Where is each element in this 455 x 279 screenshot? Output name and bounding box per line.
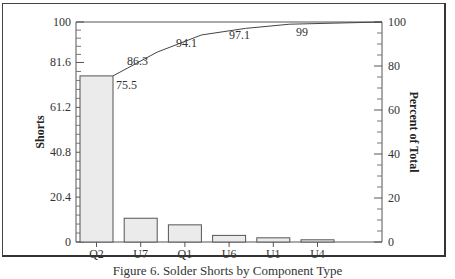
bar-q1	[168, 225, 201, 242]
right-tick-label: 40	[388, 147, 400, 161]
left-tick-label: 40.8	[50, 145, 71, 159]
x-tick-label: Q1	[178, 247, 193, 261]
bar-u1	[257, 238, 290, 242]
right-tick-label: 60	[388, 103, 400, 117]
left-tick-label: 0	[65, 235, 71, 249]
x-tick-label: U7	[133, 247, 148, 261]
bar-u6	[213, 235, 246, 242]
cumulative-label: 86.3	[127, 54, 148, 68]
right-tick-label: 0	[388, 235, 394, 249]
x-tick-label: U4	[310, 247, 325, 261]
bar-u7	[124, 218, 157, 242]
cumulative-label: 99	[296, 25, 308, 39]
cumulative-label: 94.1	[176, 36, 197, 50]
right-tick-label: 80	[388, 59, 400, 73]
x-tick-label: U1	[266, 247, 281, 261]
bar-u4	[301, 240, 334, 242]
x-tick-label: U6	[222, 247, 237, 261]
right-tick-label: 100	[388, 15, 406, 29]
left-tick-label: 61.2	[50, 100, 71, 114]
cumulative-label: 97.1	[229, 28, 250, 42]
cumulative-label: 75.5	[116, 78, 137, 92]
left-axis-title: Shorts	[33, 115, 47, 149]
left-tick-label: 20.4	[50, 190, 71, 204]
x-tick-label: Q2	[89, 247, 104, 261]
figure-caption: Figure 6. Solder Shorts by Component Typ…	[0, 263, 455, 279]
bar-q2	[80, 76, 113, 242]
left-tick-label: 100	[53, 15, 71, 29]
left-tick-label: 81.6	[50, 55, 71, 69]
right-axis-title: Percent of Total	[407, 91, 421, 173]
right-tick-label: 20	[388, 191, 400, 205]
